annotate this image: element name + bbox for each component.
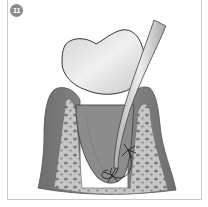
tooth-illustration	[0, 0, 208, 207]
